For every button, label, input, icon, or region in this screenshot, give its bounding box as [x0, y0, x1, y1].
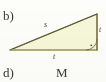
part-label-d: d) — [3, 66, 14, 79]
hypotenuse-label: s — [44, 21, 47, 29]
stray-text-m: M — [56, 66, 68, 79]
vertical-leg-label: t — [99, 26, 101, 34]
right-angle-dot-icon — [90, 44, 92, 46]
part-label-b: b) — [3, 9, 14, 22]
figure-canvas: b) s t t d) M — [0, 0, 106, 82]
base-label: t — [53, 53, 55, 61]
triangle-figure — [0, 0, 106, 82]
